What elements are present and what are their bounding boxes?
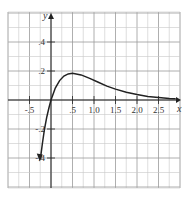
x-tick-label: .5 — [69, 105, 76, 115]
x-tick-label: 2.5 — [153, 105, 165, 115]
y-tick-label: .2 — [38, 66, 45, 76]
function-graph: -.5.51.01.52.02.5.4.2-.2-.4 y x — [0, 0, 185, 199]
y-axis-label: y — [42, 10, 48, 21]
y-axis-arrow-icon — [48, 13, 54, 19]
x-axis-label: x — [176, 103, 182, 114]
curve — [40, 73, 175, 159]
y-tick-label: .4 — [38, 37, 45, 47]
x-tick-label: 1.0 — [88, 105, 100, 115]
x-tick-label: 2.0 — [131, 105, 143, 115]
x-tick-label: -.5 — [25, 105, 35, 115]
axes — [8, 17, 176, 188]
x-tick-label: 1.5 — [110, 105, 122, 115]
